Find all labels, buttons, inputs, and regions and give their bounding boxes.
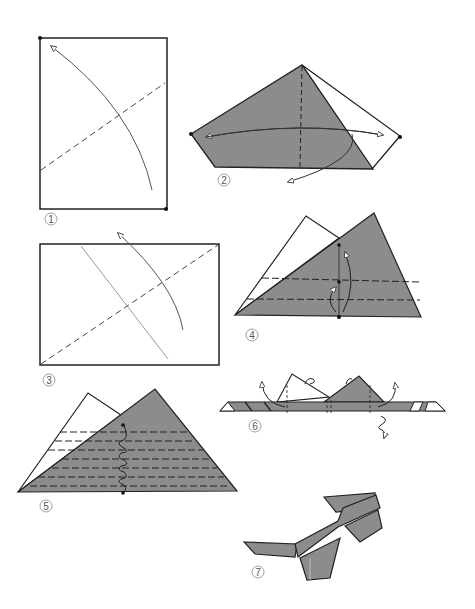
step-label-1: 1	[45, 213, 57, 225]
step-label-4: 4	[246, 329, 258, 341]
step-2: 2	[189, 65, 402, 186]
step-3: 3	[40, 233, 219, 386]
step-6: 6	[220, 374, 445, 438]
step-4: 4	[235, 213, 421, 341]
step-label-6: 6	[249, 420, 261, 432]
step-label-5: 5	[40, 500, 52, 512]
svg-text:2: 2	[221, 175, 227, 186]
origami-diagram: 1 2 3	[0, 0, 475, 609]
step-7: 7	[244, 493, 382, 580]
step-5: 5	[18, 389, 237, 512]
svg-text:1: 1	[48, 214, 54, 225]
svg-text:6: 6	[252, 421, 258, 432]
svg-text:3: 3	[46, 375, 52, 386]
svg-text:5: 5	[43, 501, 49, 512]
svg-text:7: 7	[255, 567, 261, 578]
step-label-7: 7	[252, 566, 264, 578]
step-label-2: 2	[218, 174, 230, 186]
svg-text:4: 4	[249, 330, 255, 341]
step-label-3: 3	[43, 374, 55, 386]
step-1: 1	[38, 36, 168, 225]
